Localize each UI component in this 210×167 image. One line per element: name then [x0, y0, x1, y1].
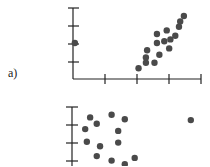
- data-point: [94, 153, 100, 159]
- data-point: [115, 139, 121, 145]
- data-point: [72, 40, 78, 46]
- data-point: [172, 33, 178, 39]
- data-point: [177, 18, 183, 24]
- data-point: [161, 38, 167, 44]
- data-point: [108, 112, 114, 118]
- data-point: [115, 128, 121, 134]
- data-point: [181, 13, 187, 19]
- data-points-a: [72, 13, 187, 72]
- data-point: [82, 126, 88, 132]
- data-point: [156, 52, 162, 58]
- data-points-b: [82, 112, 194, 167]
- axes-b: [66, 107, 78, 166]
- data-point: [122, 116, 128, 122]
- data-point: [94, 121, 100, 127]
- data-point: [154, 31, 160, 37]
- data-point: [154, 40, 160, 46]
- data-point: [135, 65, 141, 71]
- data-point: [122, 161, 128, 166]
- data-point: [144, 47, 150, 53]
- data-point: [87, 114, 93, 120]
- data-point: [164, 27, 170, 33]
- scatter-plots: [0, 0, 210, 166]
- data-point: [132, 155, 138, 161]
- data-point: [108, 157, 114, 163]
- scatter-plot-b: [66, 107, 194, 166]
- data-point: [143, 54, 149, 60]
- scatter-plot-a: [68, 8, 201, 84]
- data-point: [97, 143, 103, 149]
- data-point: [151, 60, 157, 66]
- data-point: [166, 45, 172, 51]
- data-point: [84, 139, 90, 145]
- data-point: [176, 24, 182, 30]
- data-point: [188, 117, 194, 123]
